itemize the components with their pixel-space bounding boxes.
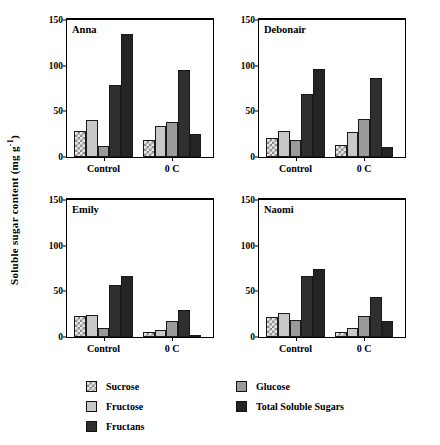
- bar-debonair-control-total-soluble-sugars: [313, 69, 325, 157]
- plot-area-naomi: 050100150Control0 C: [258, 198, 406, 338]
- bars-layer: [67, 20, 213, 157]
- bar-emily-control-sucrose: [74, 316, 86, 337]
- legend-item-sucrose: Sucrose: [86, 376, 144, 396]
- legend-column-1: GlucoseTotal Soluble Sugars: [236, 376, 344, 416]
- legend-label-fructose: Fructose: [106, 401, 143, 412]
- x-tick-mark-0c: [364, 337, 365, 341]
- y-axis-title-main: Soluble sugar content (mg g: [8, 146, 20, 285]
- bar-debonair-control-fructans: [301, 94, 313, 157]
- bar-naomi-0c-fructose: [347, 328, 359, 337]
- x-group-label-0c: 0 C: [165, 163, 180, 174]
- legend-label-fructans: Fructans: [106, 421, 144, 432]
- legend-item-fructans: Fructans: [86, 416, 144, 436]
- y-tick-label-50: 50: [54, 106, 64, 116]
- bar-anna-0c-total-soluble-sugars: [190, 134, 202, 157]
- bar-naomi-0c-total-soluble-sugars: [382, 321, 394, 337]
- y-tick-label-150: 150: [49, 15, 63, 25]
- bar-anna-0c-fructose: [155, 126, 167, 157]
- y-axis-title: Soluble sugar content (mg g-1): [0, 60, 26, 360]
- legend-item-glucose: Glucose: [236, 376, 344, 396]
- bar-emily-0c-fructans: [178, 310, 190, 337]
- x-group-label-control: Control: [87, 163, 120, 174]
- x-group-label-0c: 0 C: [357, 343, 372, 354]
- medium-gray-swatch: [236, 381, 247, 392]
- y-tick-label-150: 150: [241, 195, 255, 205]
- bar-debonair-0c-total-soluble-sugars: [382, 147, 394, 157]
- panel-anna: 050100150Control0 CAnna: [36, 10, 216, 188]
- y-tick-label-100: 100: [241, 241, 255, 251]
- bar-naomi-0c-fructans: [370, 297, 382, 337]
- x-group-label-0c: 0 C: [165, 343, 180, 354]
- bar-anna-0c-glucose: [166, 122, 178, 157]
- x-tick-mark-control: [296, 337, 297, 341]
- y-tick-label-150: 150: [241, 15, 255, 25]
- panel-title-emily: Emily: [72, 204, 99, 215]
- bar-emily-control-fructans: [109, 285, 121, 337]
- legend: SucroseFructoseFructansGlucoseTotal Solu…: [86, 376, 406, 438]
- figure-soluble-sugar-content: Soluble sugar content (mg g-1) 050100150…: [0, 0, 440, 445]
- legend-label-total: Total Soluble Sugars: [256, 401, 344, 412]
- bar-naomi-0c-sucrose: [335, 332, 347, 337]
- legend-item-fructose: Fructose: [86, 396, 144, 416]
- bar-naomi-control-glucose: [290, 320, 302, 337]
- y-tick-label-50: 50: [246, 286, 256, 296]
- bars-layer: [259, 20, 405, 157]
- bar-debonair-control-fructose: [278, 131, 290, 157]
- bar-anna-control-total-soluble-sugars: [121, 34, 133, 157]
- bar-naomi-control-fructans: [301, 276, 313, 337]
- y-tick-label-100: 100: [49, 61, 63, 71]
- bar-debonair-control-glucose: [290, 140, 302, 157]
- bar-anna-0c-sucrose: [143, 140, 155, 157]
- y-axis-title-text: Soluble sugar content (mg g-1): [6, 135, 20, 285]
- bar-debonair-0c-glucose: [358, 119, 370, 157]
- bar-naomi-control-sucrose: [266, 317, 278, 337]
- bar-debonair-0c-sucrose: [335, 145, 347, 157]
- bar-naomi-control-fructose: [278, 313, 290, 337]
- legend-label-sucrose: Sucrose: [106, 381, 139, 392]
- bars-layer: [259, 200, 405, 337]
- bar-emily-0c-sucrose: [143, 332, 155, 337]
- y-tick-label-50: 50: [54, 286, 64, 296]
- bar-emily-control-total-soluble-sugars: [121, 276, 133, 337]
- x-tick-mark-0c: [172, 337, 173, 341]
- plot-area-debonair: 050100150Control0 C: [258, 18, 406, 158]
- x-group-label-0c: 0 C: [357, 163, 372, 174]
- bar-emily-0c-fructose: [155, 330, 167, 337]
- bars-layer: [67, 200, 213, 337]
- x-group-label-control: Control: [87, 343, 120, 354]
- x-tick-mark-control: [104, 157, 105, 161]
- bar-debonair-0c-fructose: [347, 132, 359, 157]
- bar-anna-control-fructose: [86, 120, 98, 157]
- y-axis-title-superscript: -1: [6, 139, 15, 146]
- light-gray-swatch: [86, 401, 97, 412]
- bar-anna-control-sucrose: [74, 131, 86, 157]
- x-tick-mark-control: [296, 157, 297, 161]
- x-tick-mark-control: [104, 337, 105, 341]
- panel-naomi: 050100150Control0 CNaomi: [228, 190, 408, 368]
- x-tick-mark-0c: [364, 157, 365, 161]
- bar-emily-0c-glucose: [166, 321, 178, 337]
- y-axis-title-tail: ): [8, 135, 20, 139]
- bar-naomi-0c-glucose: [358, 316, 370, 337]
- legend-label-glucose: Glucose: [256, 381, 290, 392]
- bar-naomi-control-total-soluble-sugars: [313, 269, 325, 338]
- x-group-label-control: Control: [279, 343, 312, 354]
- panel-title-debonair: Debonair: [264, 24, 306, 35]
- bar-emily-control-glucose: [98, 328, 110, 337]
- darkest-swatch: [236, 401, 247, 412]
- y-tick-label-100: 100: [49, 241, 63, 251]
- bar-debonair-0c-fructans: [370, 78, 382, 157]
- plot-area-anna: 050100150Control0 C: [66, 18, 214, 158]
- y-tick-label-150: 150: [49, 195, 63, 205]
- panel-title-anna: Anna: [72, 24, 97, 35]
- panel-emily: 050100150Control0 CEmily: [36, 190, 216, 368]
- panel-debonair: 050100150Control0 CDebonair: [228, 10, 408, 188]
- bar-anna-control-glucose: [98, 146, 110, 157]
- bar-emily-0c-total-soluble-sugars: [190, 335, 202, 337]
- x-tick-mark-0c: [172, 157, 173, 161]
- x-group-label-control: Control: [279, 163, 312, 174]
- y-tick-label-100: 100: [241, 61, 255, 71]
- checkered-swatch: [86, 381, 97, 392]
- bar-anna-control-fructans: [109, 85, 121, 157]
- bar-emily-control-fructose: [86, 315, 98, 337]
